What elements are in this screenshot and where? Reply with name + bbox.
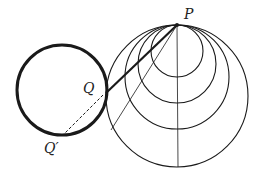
vertical-diameter xyxy=(177,25,178,167)
diagram-canvas xyxy=(0,0,267,174)
point-P xyxy=(175,23,179,27)
label-Q: Q xyxy=(83,80,94,96)
label-Q-prime: Q′ xyxy=(44,140,59,156)
label-P: P xyxy=(184,6,193,22)
diagram: P Q Q′ xyxy=(0,0,267,174)
